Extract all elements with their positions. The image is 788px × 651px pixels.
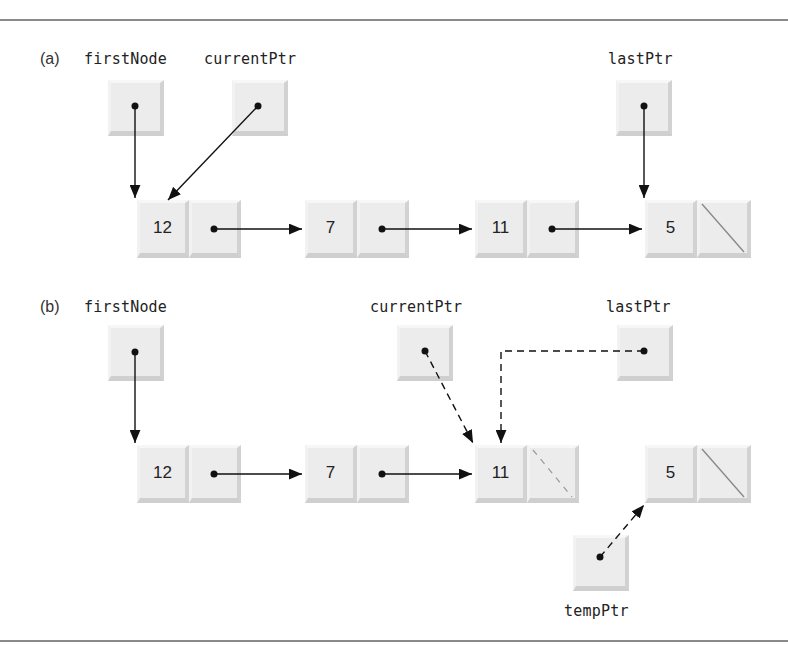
node-data-cell: 7 xyxy=(305,445,357,503)
node-value: 5 xyxy=(648,463,693,483)
firstNode-pointer-box-a xyxy=(108,80,164,136)
bottom-rule xyxy=(0,640,788,642)
node-value: 12 xyxy=(140,463,185,483)
node-next-cell xyxy=(527,200,579,258)
currentPtr-pointer-box-b xyxy=(397,325,453,381)
node-data-cell: 5 xyxy=(645,445,697,503)
part-b-label: (b) xyxy=(40,298,60,316)
currentPtr-label-a: currentPtr xyxy=(204,50,296,68)
tempPtr-label-b: tempPtr xyxy=(564,602,629,620)
node-next-cell xyxy=(189,200,241,258)
node-value: 7 xyxy=(308,463,353,483)
firstNode-label-b: firstNode xyxy=(84,298,167,316)
node-data-cell: 5 xyxy=(645,200,697,258)
tempPtr-pointer-box-b xyxy=(573,535,629,591)
node-null-cell xyxy=(697,445,751,503)
lastPtr-pointer-box-b xyxy=(617,325,673,381)
node-value: 5 xyxy=(648,218,693,238)
node-value: 7 xyxy=(308,218,353,238)
node-value: 12 xyxy=(140,218,185,238)
node-next-cell xyxy=(189,445,241,503)
node-null-cell xyxy=(697,200,751,258)
lastPtr-pointer-box-a xyxy=(616,80,672,136)
node-next-cell xyxy=(357,200,409,258)
node-data-cell: 7 xyxy=(305,200,357,258)
part-a-label: (a) xyxy=(40,50,60,68)
lastPtr-label-b: lastPtr xyxy=(606,298,671,316)
node-next-cell xyxy=(527,445,579,503)
node-data-cell: 12 xyxy=(137,445,189,503)
node-next-cell xyxy=(357,445,409,503)
currentPtr-pointer-box-a xyxy=(232,80,288,136)
node-value: 11 xyxy=(478,463,523,483)
top-rule xyxy=(0,19,788,21)
node-data-cell: 11 xyxy=(475,445,527,503)
node-data-cell: 11 xyxy=(475,200,527,258)
firstNode-label-a: firstNode xyxy=(84,50,167,68)
lastPtr-label-a: lastPtr xyxy=(608,50,673,68)
firstNode-pointer-box-b xyxy=(108,325,164,381)
currentPtr-label-b: currentPtr xyxy=(370,298,462,316)
node-data-cell: 12 xyxy=(137,200,189,258)
node-value: 11 xyxy=(478,218,523,238)
